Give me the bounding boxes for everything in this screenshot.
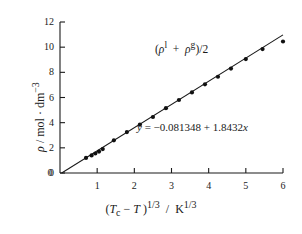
y-tick-marks bbox=[60, 22, 65, 173]
y-tick-label: 6 bbox=[32, 93, 54, 103]
chart-figure: ρ / mol · dm−3 (Tc − T )1/3 / K1/3 (ρl +… bbox=[0, 0, 302, 234]
y-tick-label: 4 bbox=[32, 118, 54, 128]
data-point bbox=[151, 115, 155, 119]
x-axis-title: (Tc − T )1/3 / K1/3 bbox=[105, 200, 196, 218]
x-tick-label: 5 bbox=[243, 181, 248, 191]
x-tick-label: 4 bbox=[206, 181, 211, 191]
data-point bbox=[101, 147, 105, 151]
data-point bbox=[244, 57, 248, 61]
data-point bbox=[229, 66, 233, 70]
data-point-group bbox=[84, 39, 285, 160]
y-tick-label: 12 bbox=[32, 17, 54, 27]
y-tick-label: 2 bbox=[32, 143, 54, 153]
data-point bbox=[177, 98, 181, 102]
data-point bbox=[216, 75, 220, 79]
data-point bbox=[84, 156, 88, 160]
data-point bbox=[97, 150, 101, 154]
fit-equation-label: y = −0.081348 + 1.8432x bbox=[137, 122, 248, 133]
y-tick-label: 10 bbox=[32, 42, 54, 52]
data-point bbox=[125, 130, 129, 134]
x-tick-label: 3 bbox=[169, 181, 174, 191]
data-point bbox=[281, 39, 285, 43]
x-tick-marks bbox=[97, 168, 283, 173]
data-point bbox=[89, 153, 93, 157]
data-point bbox=[93, 151, 97, 155]
data-point bbox=[190, 90, 194, 94]
data-point bbox=[164, 106, 168, 110]
data-point bbox=[112, 138, 116, 142]
data-point bbox=[203, 82, 207, 86]
series-annotation-label: (ρl + ρg)/2 bbox=[155, 40, 208, 55]
x-tick-label: 6 bbox=[281, 181, 286, 191]
x-tick-label: 1 bbox=[95, 181, 100, 191]
y-tick-label: 8 bbox=[32, 67, 54, 77]
x-tick-label: 2 bbox=[132, 181, 137, 191]
x-tick-label: 0 bbox=[48, 168, 53, 178]
data-point bbox=[260, 47, 264, 51]
